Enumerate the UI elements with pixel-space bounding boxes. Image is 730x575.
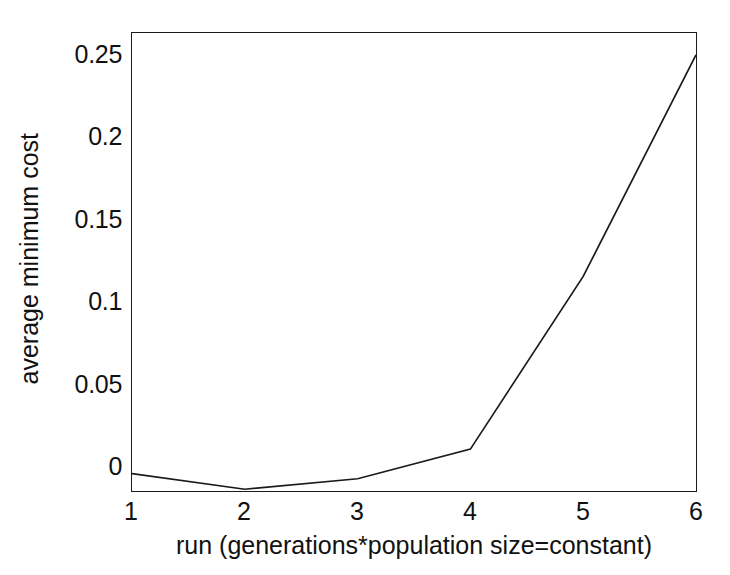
y-tick-label: 0.15 (75, 205, 122, 234)
x-tick-label: 6 (689, 497, 703, 526)
x-axis-title: run (generations*population size=constan… (131, 531, 697, 560)
y-tick-label: 0.25 (75, 40, 122, 69)
data-line-svg (132, 33, 696, 491)
data-series-line (132, 55, 696, 489)
x-tick-label: 1 (124, 497, 138, 526)
y-tick-label: 0.05 (75, 370, 122, 399)
x-tick-label: 3 (350, 497, 364, 526)
x-tick-label: 4 (463, 497, 477, 526)
plot-area (131, 32, 697, 492)
y-tick-label: 0.1 (88, 287, 122, 316)
y-tick-label: 0 (108, 452, 122, 481)
figure-canvas: 0.25 0.2 0.15 0.1 0.05 0 1 2 3 4 5 6 run… (0, 0, 730, 575)
x-tick-label: 2 (237, 497, 251, 526)
y-tick-label: 0.2 (88, 122, 122, 151)
x-tick-label: 5 (576, 497, 590, 526)
y-axis-title: average minimum cost (15, 155, 44, 385)
